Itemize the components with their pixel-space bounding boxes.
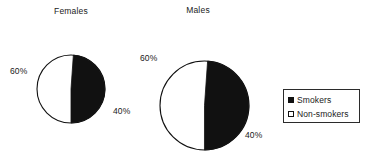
pie-males-smokers-slice: [204, 61, 248, 150]
pie-chart-females: [34, 52, 108, 126]
pie-females-svg: [34, 52, 108, 126]
legend-label-non-smokers: Non-smokers: [297, 109, 349, 119]
legend-label-smokers: Smokers: [297, 95, 331, 105]
pie-females-smokers-slice: [71, 55, 105, 123]
legend-item-smokers: Smokers: [288, 93, 359, 107]
chart-title-males: Males: [163, 5, 233, 15]
pie-chart-males: [159, 60, 251, 152]
pie-females-label-non-smokers: 60%: [10, 66, 27, 76]
filled-square-icon: [288, 97, 294, 103]
hollow-square-icon: [288, 111, 294, 117]
chart-legend: Smokers Non-smokers: [283, 89, 360, 123]
pie-males-svg: [159, 60, 251, 152]
pie-males-label-non-smokers: 60%: [140, 53, 157, 63]
legend-item-non-smokers: Non-smokers: [288, 107, 359, 121]
pie-males-label-smokers: 40%: [245, 130, 262, 140]
figure-canvas: Females Males 60% 40% 60% 40% Smokers No…: [0, 0, 373, 165]
chart-title-females: Females: [36, 6, 106, 16]
pie-females-label-smokers: 40%: [113, 106, 130, 116]
